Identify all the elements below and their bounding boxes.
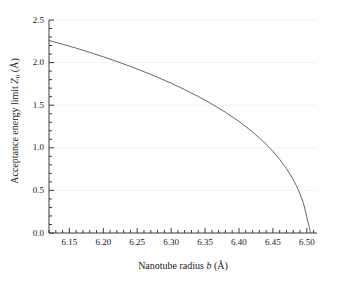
y-axis-label-subscript: 0	[14, 75, 22, 79]
y-axis-label-wrapper: Acceptance energy limit Z0 (Å)	[8, 15, 22, 228]
x-tick-label: 6.50	[287, 238, 327, 247]
y-axis-label: Acceptance energy limit Z0 (Å)	[8, 15, 25, 228]
x-axis-label-prefix: Nanotube radius	[138, 260, 206, 271]
x-tick-label-group: 6.156.206.256.306.356.406.456.50	[0, 0, 339, 283]
y-axis-label-symbol: Z	[9, 78, 20, 84]
y-axis-label-prefix: Acceptance energy limit	[9, 84, 20, 184]
x-axis-label: Nanotube radius b (Å)	[49, 260, 317, 272]
y-axis-label-unit: (Å)	[9, 58, 20, 74]
chart-figure: 0.00.51.01.52.02.5 6.156.206.256.306.356…	[0, 0, 339, 283]
x-axis-label-unit: (Å)	[211, 260, 227, 271]
